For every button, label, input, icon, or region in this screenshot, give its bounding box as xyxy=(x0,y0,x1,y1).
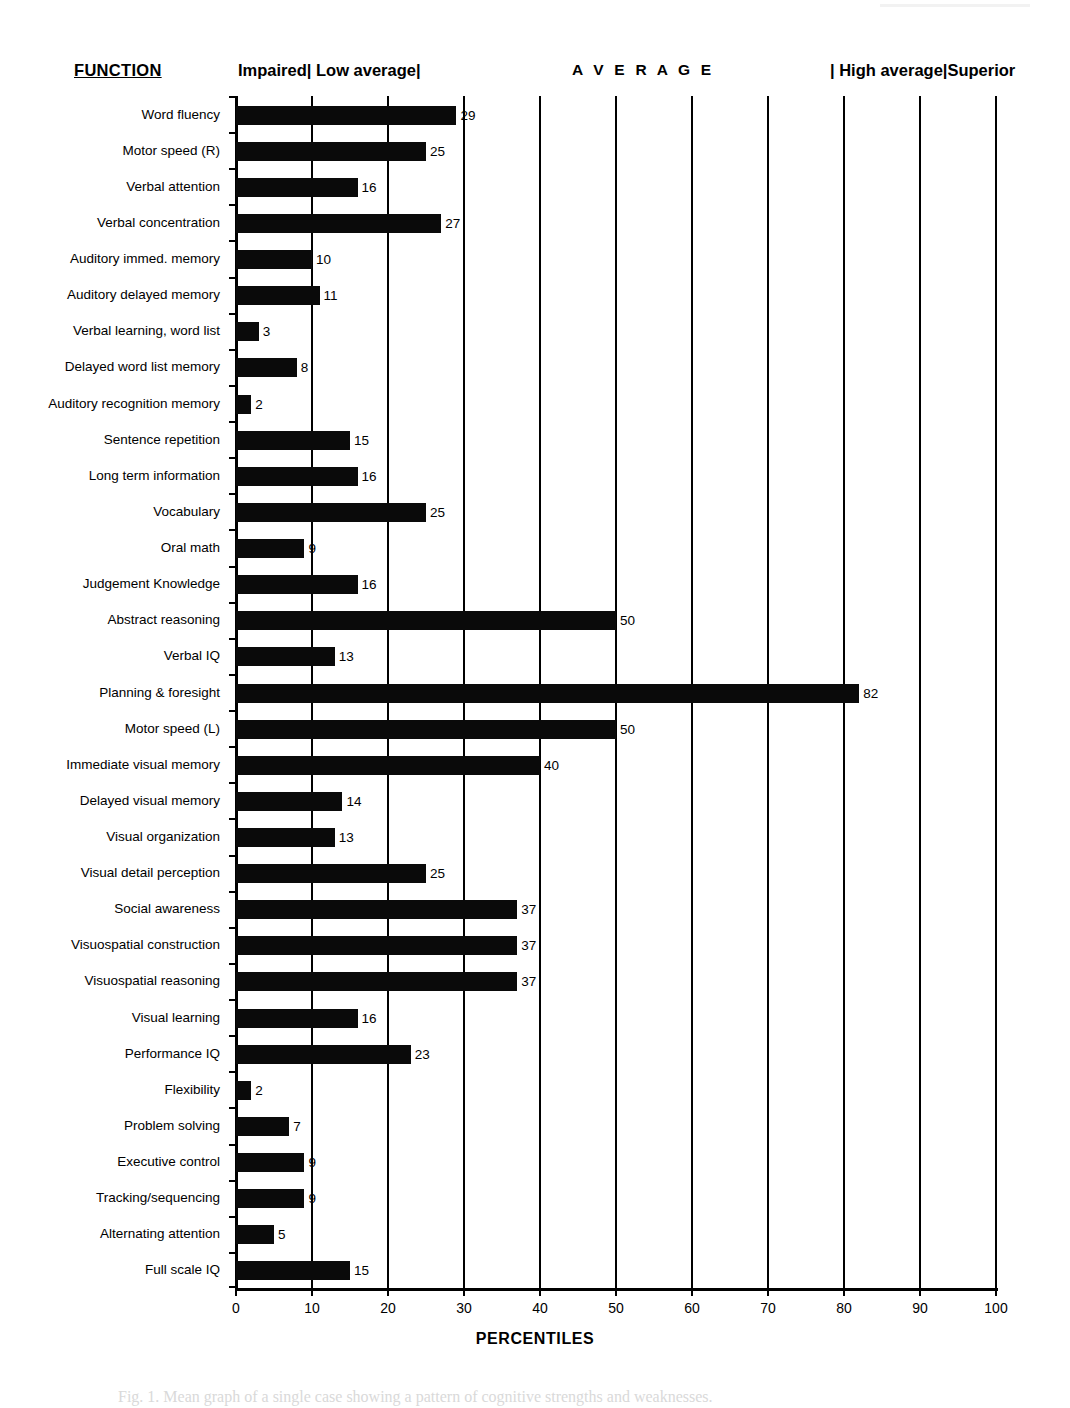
plot-area: 2925162710113821516259165013825040141325… xyxy=(236,96,996,1288)
y-tick xyxy=(229,855,236,857)
y-tick xyxy=(229,674,236,676)
category-label: Long term information xyxy=(0,469,220,483)
bar-value-label: 14 xyxy=(342,792,361,811)
x-tick-label-80: 80 xyxy=(814,1300,874,1316)
bar-value-label: 9 xyxy=(304,1153,316,1172)
category-label: Sentence repetition xyxy=(0,433,220,447)
x-tick-label-50: 50 xyxy=(586,1300,646,1316)
bar-value-label: 29 xyxy=(456,106,475,125)
y-tick xyxy=(229,638,236,640)
x-tick-80 xyxy=(843,1288,845,1296)
x-tick-20 xyxy=(387,1288,389,1296)
bar-value-label: 16 xyxy=(358,1009,377,1028)
category-label: Verbal learning, word list xyxy=(0,324,220,338)
x-tick-40 xyxy=(539,1288,541,1296)
bar xyxy=(236,575,358,594)
category-label: Delayed visual memory xyxy=(0,794,220,808)
x-tick-label-30: 30 xyxy=(434,1300,494,1316)
bar xyxy=(236,1153,304,1172)
bar xyxy=(236,611,616,630)
category-label: Oral math xyxy=(0,541,220,555)
x-tick-100 xyxy=(995,1288,997,1296)
bar xyxy=(236,1081,251,1100)
bar-value-label: 25 xyxy=(426,142,445,161)
x-tick-label-60: 60 xyxy=(662,1300,722,1316)
y-tick xyxy=(229,529,236,531)
bar xyxy=(236,647,335,666)
y-tick xyxy=(229,891,236,893)
category-label: Auditory immed. memory xyxy=(0,252,220,266)
y-tick xyxy=(229,1035,236,1037)
function-column-heading: FUNCTION xyxy=(74,60,162,80)
bar xyxy=(236,503,426,522)
category-label: Motor speed (L) xyxy=(0,722,220,736)
bar-value-label: 10 xyxy=(312,250,331,269)
category-label: Visuospatial construction xyxy=(0,938,220,952)
bar xyxy=(236,1225,274,1244)
bar-value-label: 82 xyxy=(859,684,878,703)
bar xyxy=(236,720,616,739)
bar-value-label: 25 xyxy=(426,864,445,883)
y-tick xyxy=(229,204,236,206)
x-tick-label-40: 40 xyxy=(510,1300,570,1316)
figure-caption: Fig. 1. Mean graph of a single case show… xyxy=(118,1388,938,1408)
chart-page: FUNCTION Impaired| Low average| A V E R … xyxy=(0,0,1070,1408)
category-label: Visual organization xyxy=(0,830,220,844)
bar xyxy=(236,106,456,125)
y-tick xyxy=(229,1107,236,1109)
y-tick xyxy=(229,385,236,387)
bar xyxy=(236,142,426,161)
y-tick xyxy=(229,1216,236,1218)
category-label: Verbal attention xyxy=(0,180,220,194)
bar-value-label: 40 xyxy=(540,756,559,775)
category-label: Verbal concentration xyxy=(0,216,220,230)
y-tick xyxy=(229,421,236,423)
x-tick-50 xyxy=(615,1288,617,1296)
bar-value-label: 25 xyxy=(426,503,445,522)
y-tick xyxy=(229,927,236,929)
bar xyxy=(236,1045,411,1064)
category-label: Alternating attention xyxy=(0,1227,220,1241)
bar-value-label: 16 xyxy=(358,178,377,197)
category-label: Executive control xyxy=(0,1155,220,1169)
y-tick xyxy=(229,313,236,315)
gridline-100 xyxy=(995,96,997,1288)
bar-value-label: 9 xyxy=(304,1189,316,1208)
bar-value-label: 27 xyxy=(441,214,460,233)
bar-value-label: 16 xyxy=(358,467,377,486)
x-tick-label-90: 90 xyxy=(890,1300,950,1316)
bar-value-label: 3 xyxy=(259,322,271,341)
bar xyxy=(236,684,859,703)
y-tick xyxy=(229,566,236,568)
bar xyxy=(236,1009,358,1028)
y-tick xyxy=(229,818,236,820)
y-tick xyxy=(229,457,236,459)
bar xyxy=(236,214,441,233)
bar xyxy=(236,358,297,377)
category-label: Visual detail perception xyxy=(0,866,220,880)
bar-value-label: 2 xyxy=(251,395,263,414)
x-tick-label-10: 10 xyxy=(282,1300,342,1316)
scan-artifact xyxy=(880,4,1030,7)
category-label: Problem solving xyxy=(0,1119,220,1133)
y-tick xyxy=(229,746,236,748)
x-tick-label-0: 0 xyxy=(206,1300,266,1316)
x-tick-30 xyxy=(463,1288,465,1296)
category-label: Auditory delayed memory xyxy=(0,288,220,302)
category-label: Tracking/sequencing xyxy=(0,1191,220,1205)
x-axis-line xyxy=(236,1288,998,1291)
x-tick-label-100: 100 xyxy=(966,1300,1026,1316)
bar xyxy=(236,864,426,883)
category-label: Verbal IQ xyxy=(0,649,220,663)
category-label: Planning & foresight xyxy=(0,686,220,700)
y-tick xyxy=(229,96,236,98)
bar-value-label: 7 xyxy=(289,1117,301,1136)
bar xyxy=(236,1189,304,1208)
category-label: Flexibility xyxy=(0,1083,220,1097)
category-label: Delayed word list memory xyxy=(0,360,220,374)
bar xyxy=(236,250,312,269)
y-tick xyxy=(229,1180,236,1182)
bar-value-label: 15 xyxy=(350,431,369,450)
bar-value-label: 23 xyxy=(411,1045,430,1064)
y-tick xyxy=(229,1144,236,1146)
